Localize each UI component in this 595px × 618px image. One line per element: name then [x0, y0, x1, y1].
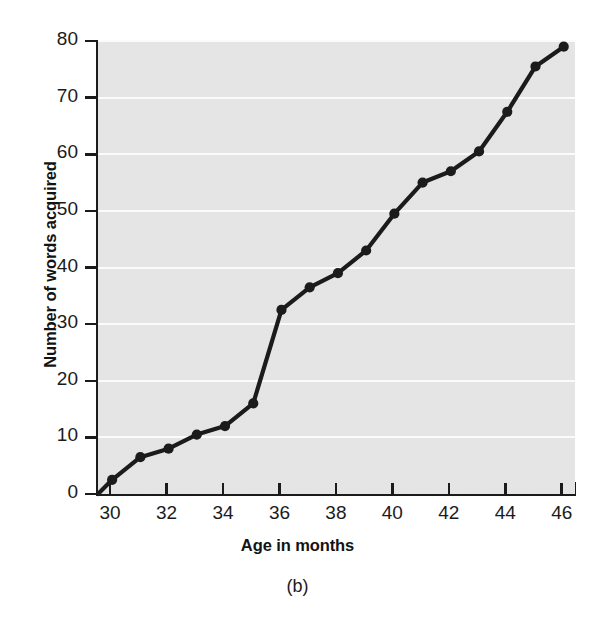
x-axis-title: Age in months [0, 536, 595, 555]
y-tick-50 [85, 210, 96, 213]
x-tick-36 [278, 483, 281, 494]
data-point-35mo [248, 398, 258, 408]
plot-area [96, 41, 575, 496]
x-tick-30 [109, 483, 112, 494]
data-point-34mo [220, 421, 230, 431]
x-tick-label-36: 36 [249, 502, 309, 524]
y-tick-label-10: 10 [18, 424, 78, 446]
x-tick-label-42: 42 [419, 502, 479, 524]
y-tick-label-40: 40 [18, 255, 78, 277]
x-tick-label-46: 46 [532, 502, 592, 524]
figure-caption: (b) [0, 576, 595, 597]
x-tick-label-40: 40 [362, 502, 422, 524]
data-point-44mo [502, 107, 512, 117]
data-point-39mo [361, 245, 371, 255]
y-tick-60 [85, 153, 96, 156]
data-point-31mo [135, 452, 145, 462]
data-point-38mo [333, 268, 343, 278]
data-point-45mo [530, 61, 540, 71]
y-tick-label-80: 80 [18, 28, 78, 50]
x-tick-label-32: 32 [137, 502, 197, 524]
data-point-36mo [276, 305, 286, 315]
x-tick-44 [504, 483, 507, 494]
x-tick-34 [222, 483, 225, 494]
data-point-41mo [417, 177, 427, 187]
y-tick-label-20: 20 [18, 368, 78, 390]
y-tick-70 [85, 96, 96, 99]
y-tick-label-60: 60 [18, 141, 78, 163]
data-point-42mo [446, 166, 456, 176]
x-tick-label-44: 44 [475, 502, 535, 524]
data-point-33mo [192, 429, 202, 439]
y-tick-label-0: 0 [18, 481, 78, 503]
y-tick-10 [85, 436, 96, 439]
x-tick-42 [448, 483, 451, 494]
x-tick-38 [335, 483, 338, 494]
y-tick-30 [85, 323, 96, 326]
x-tick-label-34: 34 [193, 502, 253, 524]
data-point-43mo [474, 146, 484, 156]
figure-panel-b: Number of words acquired 010203040506070… [0, 0, 595, 618]
data-point-46mo [559, 42, 569, 52]
series-line [98, 47, 564, 494]
data-point-32mo [163, 444, 173, 454]
y-tick-80 [85, 40, 96, 43]
y-tick-0 [85, 493, 96, 496]
x-tick-32 [165, 483, 168, 494]
y-tick-label-30: 30 [18, 311, 78, 333]
y-tick-20 [85, 380, 96, 383]
y-tick-label-50: 50 [18, 198, 78, 220]
x-tick-40 [391, 483, 394, 494]
x-tick-46 [560, 483, 563, 494]
data-point-40mo [389, 209, 399, 219]
x-tick-label-38: 38 [306, 502, 366, 524]
data-point-37mo [305, 282, 315, 292]
y-tick-40 [85, 266, 96, 269]
x-tick-label-30: 30 [80, 502, 140, 524]
line-series-words-acquired [98, 41, 575, 494]
y-tick-label-70: 70 [18, 85, 78, 107]
